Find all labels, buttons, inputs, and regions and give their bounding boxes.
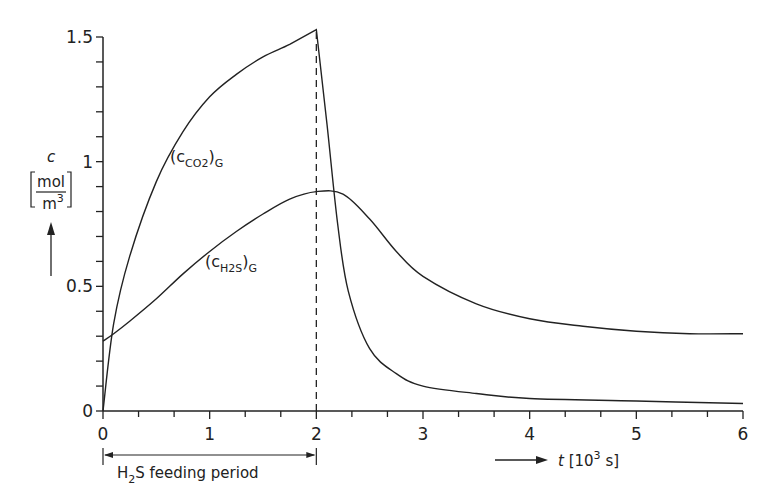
axis-ticks: 012345600.511.5: [66, 27, 748, 444]
y-tick-label: 1: [82, 152, 93, 172]
x-tick-label: 2: [311, 424, 322, 444]
arrow-left-icon: [104, 452, 113, 458]
arrow-right-icon: [536, 456, 548, 464]
y-unit-numerator: mol: [37, 173, 65, 191]
line-chart: 012345600.511.5 (cCO2)G(cH2S)GH2S feedin…: [0, 0, 771, 498]
x-tick-label: 3: [418, 424, 429, 444]
y-unit-denominator: m3: [42, 192, 64, 213]
x-tick-label: 4: [524, 424, 535, 444]
x-tick-label: 5: [631, 424, 642, 444]
x-tick-label: 6: [738, 424, 749, 444]
h2s-curve: [103, 191, 743, 341]
x-tick-label: 1: [204, 424, 215, 444]
y-tick-label: 0.5: [66, 276, 93, 296]
curves: [103, 30, 743, 411]
arrow-up-icon: [47, 222, 55, 235]
y-tick-label: 1.5: [66, 27, 93, 47]
axes: [103, 37, 743, 411]
y-axis-symbol: c: [47, 148, 56, 166]
x-axis-label: t [103 s]: [558, 449, 619, 470]
y-unit-bracket-left: [31, 172, 35, 207]
h2s-curve-label: (cH2S)G: [205, 252, 257, 275]
co2-curve-label: (cCO2)G: [170, 147, 223, 170]
y-tick-label: 0: [82, 401, 93, 421]
feeding-period-label: H2S feeding period: [117, 464, 259, 486]
co2-curve: [103, 30, 743, 411]
y-unit-bracket-right: [67, 172, 71, 207]
arrow-right-icon: [306, 452, 315, 458]
x-tick-label: 0: [98, 424, 109, 444]
